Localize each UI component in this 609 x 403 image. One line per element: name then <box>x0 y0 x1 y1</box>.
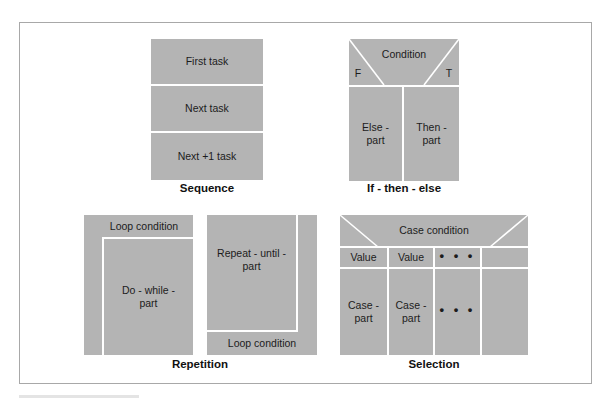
selection-case-part-1: Case - part <box>340 269 387 355</box>
case-condition-text: Case condition <box>390 222 478 238</box>
selection-case-part-ellipsis: • • • <box>435 266 480 352</box>
case-part-1-text: Case - part <box>348 299 379 325</box>
selection-case-part-4 <box>482 269 528 355</box>
selection-value-ellipsis: • • • <box>435 246 480 265</box>
selection-label: Selection <box>384 358 484 370</box>
selection-case-part-2: Case - part <box>389 269 433 355</box>
selection-value-2: Value <box>389 248 433 267</box>
figure-caption-placeholder <box>19 395 139 398</box>
case-part-2-text: Case - part <box>396 299 427 325</box>
selection-value-4 <box>482 248 528 267</box>
selection-value-1: Value <box>340 248 387 267</box>
